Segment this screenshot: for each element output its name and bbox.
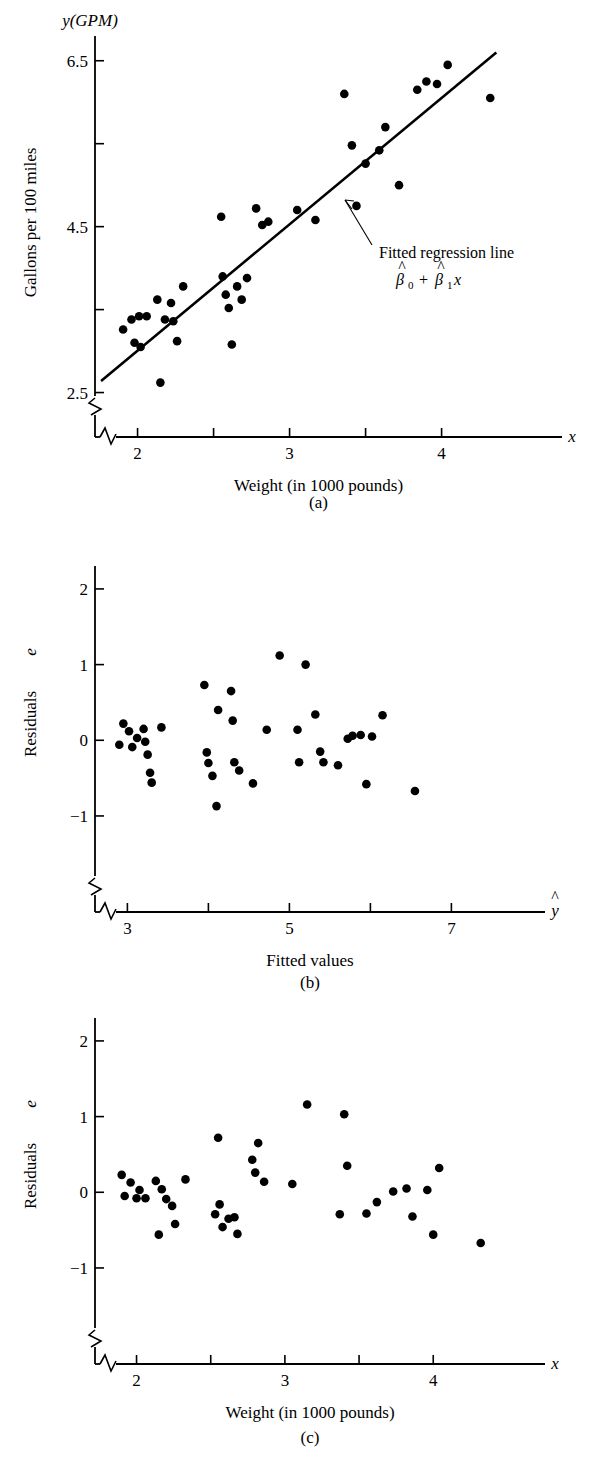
data-point — [171, 1220, 180, 1229]
data-point — [395, 181, 404, 190]
panel-caption: (a) — [309, 493, 328, 512]
data-point — [208, 772, 217, 781]
data-point — [362, 1209, 371, 1218]
x-axis-variable-yhat: ^y — [549, 888, 559, 920]
data-point — [215, 1200, 224, 1209]
data-point — [411, 787, 420, 796]
data-point — [135, 312, 144, 321]
x-axis-title: Weight (in 1000 pounds) — [225, 1403, 394, 1422]
x-tick-label-0: 2 — [133, 444, 142, 463]
data-point — [435, 1164, 444, 1173]
x-axis-variable-label: y — [549, 901, 559, 920]
data-point — [378, 711, 387, 720]
data-point — [311, 710, 320, 719]
panel-c: 210−1234xWeight (in 1000 pounds)Residual… — [0, 1000, 592, 1457]
data-point — [167, 299, 176, 308]
data-point — [235, 766, 244, 775]
data-point — [340, 90, 349, 99]
y-tick-label-3: −1 — [70, 1259, 88, 1278]
data-point — [362, 780, 371, 789]
data-point — [162, 1195, 171, 1204]
data-point — [340, 1110, 349, 1119]
y-axis-variable-text: y(GPM) — [60, 11, 118, 30]
x-axis-variable-label: x — [550, 1354, 559, 1373]
data-point — [429, 1230, 438, 1239]
data-point — [214, 1133, 223, 1142]
fitted-regression-line — [101, 52, 496, 381]
data-point — [214, 706, 223, 715]
data-point — [368, 732, 377, 741]
data-points — [119, 61, 495, 387]
beta1-subscript: 1 — [447, 279, 453, 291]
data-point — [139, 725, 148, 734]
equation-plus-sign: + — [419, 271, 428, 288]
data-point — [443, 61, 452, 70]
axis-break-x-icon — [100, 428, 116, 444]
data-point — [413, 85, 422, 94]
y-axis-title-variable: e — [21, 648, 40, 656]
data-point — [251, 1168, 260, 1177]
data-point — [264, 217, 273, 226]
data-point — [433, 80, 442, 89]
data-point — [120, 1192, 129, 1201]
data-point — [295, 758, 304, 767]
axis-break-y-icon — [89, 878, 101, 895]
scatter-plot-a: 6.54.52.5234xWeight (in 1000 pounds)Gall… — [0, 0, 592, 520]
data-point — [408, 1212, 417, 1221]
data-point — [486, 94, 495, 103]
data-point — [260, 1177, 269, 1186]
y-tick-label-1: 1 — [80, 1108, 89, 1127]
data-point — [233, 1230, 242, 1239]
data-point — [119, 719, 128, 728]
data-point — [169, 317, 178, 326]
data-point — [143, 750, 152, 759]
data-point — [202, 748, 211, 757]
data-point — [293, 725, 302, 734]
data-point — [348, 141, 357, 150]
x-tick-label-0: 3 — [123, 919, 132, 938]
x-tick-label-2: 3 — [285, 444, 294, 463]
data-point — [173, 337, 182, 346]
axis-break-y-icon — [89, 1330, 101, 1347]
data-point — [254, 1139, 263, 1148]
annotation-equation: ^β0+^β1x — [395, 258, 461, 291]
data-point — [157, 723, 166, 732]
data-point — [352, 202, 361, 211]
data-point — [212, 802, 221, 811]
data-point — [288, 1180, 297, 1189]
beta0-symbol: β — [395, 271, 404, 289]
y-axis-title: Gallons per 100 miles — [21, 148, 40, 298]
data-point — [132, 1194, 141, 1203]
data-point — [157, 1185, 166, 1194]
y-axis-title-variable: e — [21, 1100, 40, 1108]
y-tick-label-4: 2.5 — [67, 384, 88, 403]
data-point — [135, 1186, 144, 1195]
data-point — [301, 660, 310, 669]
panel-b: 210−1357^yFitted valuesResiduals e(b) — [0, 520, 592, 1000]
data-point — [146, 769, 155, 778]
data-point — [230, 758, 239, 767]
y-tick-label-2: 4.5 — [67, 218, 88, 237]
y-axis-title: Residuals e — [21, 648, 40, 757]
residuals-vs-fitted-plot-b: 210−1357^yFitted valuesResiduals e(b) — [0, 520, 592, 1000]
data-point — [356, 731, 365, 740]
axis-break-x-icon — [100, 903, 116, 919]
data-point — [381, 123, 390, 132]
data-point — [179, 282, 188, 291]
data-point — [476, 1239, 485, 1248]
y-tick-label-1: 1 — [80, 656, 89, 675]
data-point — [334, 761, 343, 770]
y-axis-title-text: Residuals — [21, 691, 40, 757]
data-point — [402, 1184, 411, 1193]
residuals-vs-weight-plot-c: 210−1234xWeight (in 1000 pounds)Residual… — [0, 1000, 592, 1457]
data-point — [237, 295, 246, 304]
panel-a: 6.54.52.5234xWeight (in 1000 pounds)Gall… — [0, 0, 592, 520]
beta1-symbol: β — [434, 271, 443, 289]
data-point — [227, 687, 236, 696]
data-point — [115, 741, 124, 750]
data-point — [311, 216, 320, 225]
data-point — [152, 1177, 161, 1186]
x-axis-variable-label: x — [567, 427, 576, 446]
data-point — [275, 651, 284, 660]
data-point — [423, 1186, 432, 1195]
